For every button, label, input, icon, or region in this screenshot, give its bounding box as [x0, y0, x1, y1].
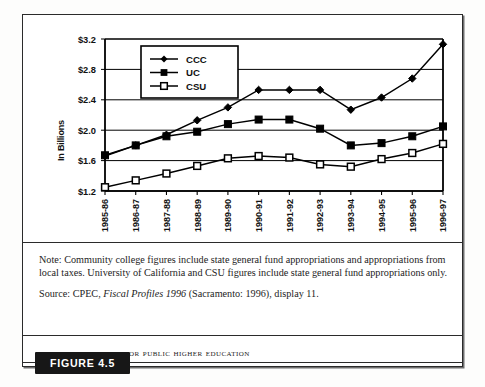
- y-tick-label: $1.6: [78, 156, 96, 166]
- data-point-marker: [286, 86, 293, 93]
- data-point-marker: [409, 133, 416, 140]
- data-point-marker: [132, 142, 139, 149]
- data-point-marker: [163, 133, 170, 140]
- x-tick-label: 1992-93: [315, 199, 325, 232]
- data-point-marker: [102, 184, 109, 191]
- data-point-marker: [193, 117, 200, 124]
- x-tick-label: 1995-96: [408, 199, 418, 232]
- source-prefix: Source: CPEC,: [39, 288, 103, 299]
- x-tick-label: 1990-91: [254, 199, 264, 232]
- data-point-marker: [255, 153, 262, 160]
- data-point-marker: [347, 142, 354, 149]
- x-tick-label: 1993-94: [346, 199, 356, 232]
- source-title-italic: Fiscal Profiles 1996: [103, 288, 186, 299]
- data-point-marker: [378, 156, 385, 163]
- x-tick-label: 1988-89: [193, 199, 203, 232]
- data-point-marker: [255, 116, 262, 123]
- note-panel: Note: Community college figures include …: [23, 243, 462, 336]
- y-tick-label: $2.4: [78, 95, 97, 105]
- figure-number-badge: FIGURE 4.5: [35, 352, 130, 374]
- data-point-marker: [225, 155, 232, 162]
- y-tick-label: $2.8: [78, 65, 96, 75]
- legend-marker: [161, 69, 168, 76]
- data-point-marker: [317, 125, 324, 132]
- data-point-marker: [286, 116, 293, 123]
- data-point-marker: [378, 140, 385, 147]
- source-suffix: (Sacramento: 1996), display 11.: [186, 288, 319, 299]
- y-tick-label: $3.2: [78, 35, 96, 45]
- y-tick-label: $1.2: [78, 187, 96, 197]
- source-text: Source: CPEC, Fiscal Profiles 1996 (Sacr…: [39, 287, 448, 300]
- data-point-marker: [194, 163, 201, 170]
- figure-frame: In Billions $1.2$1.6$2.0$2.4$2.8$3.21985…: [22, 14, 463, 367]
- chart-panel: In Billions $1.2$1.6$2.0$2.4$2.8$3.21985…: [23, 15, 462, 243]
- x-tick-label: 1989-90: [223, 199, 233, 232]
- x-tick-label: 1996-97: [438, 199, 448, 232]
- data-point-marker: [440, 140, 447, 147]
- data-point-marker: [347, 106, 354, 113]
- data-point-marker: [255, 86, 262, 93]
- data-point-marker: [102, 152, 109, 159]
- legend-label: CSU: [186, 81, 206, 92]
- data-point-marker: [194, 128, 201, 135]
- x-tick-label: 1986-87: [131, 199, 141, 232]
- legend-label: UC: [186, 67, 200, 78]
- chart-plot-area: $1.2$1.6$2.0$2.4$2.8$3.21985-861986-8719…: [23, 15, 462, 241]
- x-tick-label: 1994-95: [377, 199, 387, 232]
- data-point-marker: [409, 150, 416, 157]
- data-point-marker: [316, 86, 323, 93]
- data-point-marker: [347, 163, 354, 170]
- data-point-marker: [224, 121, 231, 128]
- data-point-marker: [132, 177, 139, 184]
- data-point-marker: [163, 170, 170, 177]
- x-tick-label: 1985-86: [100, 199, 110, 232]
- note-text: Note: Community college figures include …: [39, 253, 448, 280]
- legend-marker: [161, 83, 168, 90]
- data-point-marker: [440, 123, 447, 130]
- data-point-marker: [286, 154, 293, 161]
- x-tick-label: 1987-88: [162, 199, 172, 232]
- data-point-marker: [317, 161, 324, 168]
- figure-screenshot: In Billions $1.2$1.6$2.0$2.4$2.8$3.21985…: [0, 0, 485, 387]
- data-point-marker: [224, 104, 231, 111]
- x-tick-label: 1991-92: [285, 199, 295, 232]
- line-chart: $1.2$1.6$2.0$2.4$2.8$3.21985-861986-8719…: [23, 15, 462, 241]
- y-tick-label: $2.0: [78, 126, 96, 136]
- legend-label: CCC: [186, 54, 207, 65]
